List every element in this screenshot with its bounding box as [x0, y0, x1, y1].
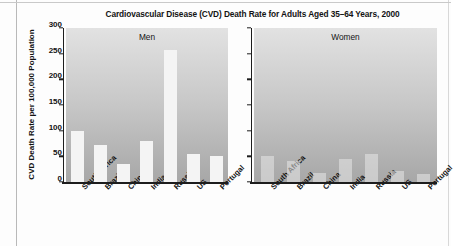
figure-border-right — [448, 0, 449, 246]
y-tick-mark — [247, 130, 251, 131]
y-tick-mark — [247, 79, 251, 80]
x-axis-baseline-men — [62, 182, 228, 184]
bar-group-men — [66, 28, 228, 182]
y-tick-mark — [59, 79, 63, 80]
figure-border-left — [16, 0, 17, 246]
y-axis-spine-women — [251, 28, 253, 182]
bar — [313, 173, 326, 182]
bar — [261, 156, 274, 182]
bar — [391, 171, 404, 182]
y-tick-mark — [59, 104, 63, 105]
x-axis-tick-labels-women: South AfricaBrazilChinaIndiaRussiaUSPort… — [254, 184, 437, 244]
y-tick-mark — [247, 27, 251, 28]
figure-border-top — [0, 2, 451, 3]
bar — [210, 156, 223, 182]
bar — [94, 145, 107, 182]
bar-group-women — [254, 28, 437, 182]
y-axis-label: CVD Death Rate per 100,000 Population — [27, 25, 36, 185]
x-axis-baseline-women — [250, 182, 437, 184]
bar — [187, 154, 200, 182]
y-tick-mark — [59, 130, 63, 131]
bar — [117, 164, 130, 182]
chart-title: Cardiovascular Disease (CVD) Death Rate … — [60, 9, 445, 19]
bar — [71, 131, 84, 182]
y-tick-mark — [247, 53, 251, 54]
bar — [417, 174, 430, 182]
y-tick-mark — [59, 27, 63, 28]
panel-title-men: Men — [66, 32, 228, 42]
y-tick-mark — [59, 156, 63, 157]
y-tick-mark — [247, 104, 251, 105]
bar — [365, 154, 378, 182]
bar — [339, 159, 352, 182]
y-tick-mark — [247, 156, 251, 157]
y-axis-spine-men — [63, 28, 65, 182]
panel-women: Women — [254, 28, 437, 182]
y-tick-mark — [59, 53, 63, 54]
bar — [164, 50, 177, 182]
bar — [287, 161, 300, 182]
bar — [140, 141, 153, 182]
panel-title-women: Women — [254, 32, 437, 42]
x-axis-tick-labels-men: South AfricaBrazilChinaIndiaRussiaUSPort… — [66, 184, 228, 244]
panel-men: Men — [66, 28, 228, 182]
